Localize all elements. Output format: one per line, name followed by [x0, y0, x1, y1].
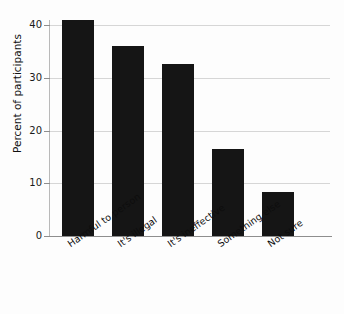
y-axis-title: Percent of participants [12, 24, 23, 164]
y-tick-mark [44, 236, 50, 237]
y-tick-label: 20 [16, 126, 42, 136]
y-tick-label-wrap: 20 [10, 126, 42, 136]
y-tick-label: 0 [16, 231, 42, 241]
y-tick-label-wrap: 40 [10, 20, 42, 30]
bar [62, 20, 94, 236]
plot-area [50, 14, 330, 236]
y-tick-label-wrap: 30 [10, 73, 42, 83]
bar [162, 64, 194, 236]
y-tick-label: 40 [16, 20, 42, 30]
y-tick-label: 10 [16, 178, 42, 188]
y-tick-label-wrap: 10 [10, 178, 42, 188]
bar-chart: Percent of participants 010203040 Harmfu… [0, 0, 344, 314]
y-tick-label: 30 [16, 73, 42, 83]
y-tick-label-wrap: 0 [10, 231, 42, 241]
